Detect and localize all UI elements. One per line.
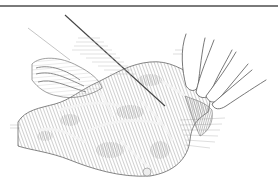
steak-slicing-illustration xyxy=(0,0,278,191)
steak-tail xyxy=(32,58,102,97)
bone-circle xyxy=(143,168,151,176)
